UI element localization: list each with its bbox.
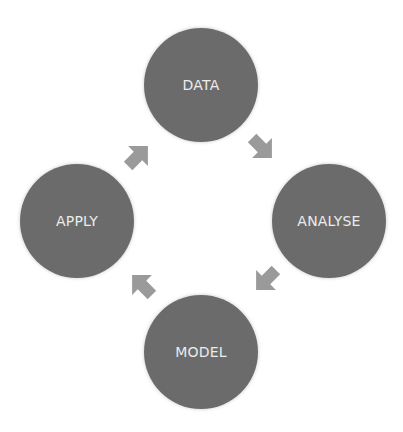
node-label-analyse: ANALYSE xyxy=(297,213,360,229)
arrow-up-left-icon xyxy=(125,268,159,302)
node-label-data: DATA xyxy=(183,77,220,93)
cycle-diagram: DATA ANALYSE MODEL APPLY xyxy=(0,0,403,432)
node-label-apply: APPLY xyxy=(56,213,98,229)
arrow-up-right-icon xyxy=(121,139,155,173)
node-model: MODEL xyxy=(144,295,258,409)
node-label-model: MODEL xyxy=(175,344,227,360)
arrow-down-left-icon xyxy=(249,263,283,297)
node-apply: APPLY xyxy=(20,164,134,278)
node-analyse: ANALYSE xyxy=(272,164,386,278)
node-data: DATA xyxy=(144,28,258,142)
arrow-down-right-icon xyxy=(245,131,279,165)
